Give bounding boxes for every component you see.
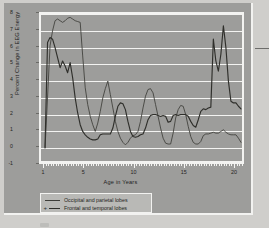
x-tick-minor xyxy=(101,163,102,166)
plot-wrapper xyxy=(39,12,244,168)
y-tick-label: 8 xyxy=(0,9,13,15)
x-tick-minor xyxy=(51,163,52,166)
x-tick-minor xyxy=(58,163,59,166)
x-tick-major xyxy=(134,163,135,168)
x-tick-minor xyxy=(219,163,220,166)
y-tick-mark xyxy=(36,129,39,130)
x-tick-minor xyxy=(239,163,240,166)
x-tick-minor xyxy=(164,163,165,166)
x-tick-minor xyxy=(199,163,200,166)
chart-panel: Percent Change in EEG Energy -1012345678… xyxy=(4,3,253,215)
x-axis-ticks xyxy=(39,163,244,168)
x-tick-minor xyxy=(216,163,217,166)
x-tick-minor xyxy=(166,163,167,166)
x-tick-minor xyxy=(146,163,147,166)
x-tick-label: 20 xyxy=(231,169,237,175)
y-tick-label: 7 xyxy=(0,26,13,32)
x-tick-minor xyxy=(151,163,152,166)
x-tick-minor xyxy=(118,163,119,166)
y-tick-label: 1 xyxy=(0,126,13,132)
x-tick-minor xyxy=(209,163,210,166)
legend-key-plus-line-icon: + xyxy=(44,205,61,212)
x-tick-minor xyxy=(113,163,114,166)
x-tick-minor xyxy=(161,163,162,166)
x-tick-minor xyxy=(68,163,69,166)
x-tick-minor xyxy=(81,163,82,166)
x-tick-minor xyxy=(194,163,195,166)
x-tick-minor xyxy=(191,163,192,166)
x-tick-minor xyxy=(131,163,132,166)
x-tick-minor xyxy=(88,163,89,166)
x-tick-minor xyxy=(108,163,109,166)
x-tick-minor xyxy=(201,163,202,166)
y-tick-mark xyxy=(36,12,39,13)
x-tick-minor xyxy=(179,163,180,166)
x-tick-minor xyxy=(204,163,205,166)
x-tick-minor xyxy=(176,163,177,166)
figure-page: Percent Change in EEG Energy -1012345678… xyxy=(0,0,269,228)
x-tick-minor xyxy=(221,163,222,166)
x-tick-minor xyxy=(159,163,160,166)
x-tick-minor xyxy=(141,163,142,166)
x-tick-label: 15 xyxy=(181,169,187,175)
y-tick-mark xyxy=(36,79,39,80)
x-tick-minor xyxy=(71,163,72,166)
x-tick-minor xyxy=(93,163,94,166)
x-axis-title-text: Age in Years xyxy=(104,179,138,185)
plot-area xyxy=(39,12,244,163)
x-axis-title: Age in Years xyxy=(4,179,251,185)
y-tick-mark xyxy=(36,113,39,114)
y-tick-mark xyxy=(36,29,39,30)
x-tick-minor xyxy=(169,163,170,166)
x-tick-minor xyxy=(242,163,243,166)
x-tick-minor xyxy=(226,163,227,166)
legend-item-occipital: Occipital and parietal lobes xyxy=(44,196,148,204)
x-tick-minor xyxy=(61,163,62,166)
x-tick-minor xyxy=(174,163,175,166)
x-tick-minor xyxy=(78,163,79,166)
x-tick-minor xyxy=(91,163,92,166)
x-tick-minor xyxy=(154,163,155,166)
x-tick-minor xyxy=(48,163,49,166)
y-tick-label: 6 xyxy=(0,43,13,49)
x-tick-minor xyxy=(116,163,117,166)
x-tick-minor xyxy=(139,163,140,166)
legend-label-frontal: Frontal and temporal lobes xyxy=(64,205,127,211)
x-tick-minor xyxy=(56,163,57,166)
x-tick-minor xyxy=(123,163,124,166)
x-tick-minor xyxy=(98,163,99,166)
x-tick-minor xyxy=(206,163,207,166)
x-tick-minor xyxy=(106,163,107,166)
x-tick-minor xyxy=(63,163,64,166)
x-tick-minor xyxy=(181,163,182,166)
x-tick-label: 1 xyxy=(42,169,45,175)
x-tick-minor xyxy=(103,163,104,166)
series-layer xyxy=(41,14,246,165)
margin-rule xyxy=(255,48,269,49)
x-tick-minor xyxy=(229,163,230,166)
series-line xyxy=(45,26,241,148)
x-tick-label: 10 xyxy=(131,169,137,175)
x-tick-minor xyxy=(46,163,47,166)
x-tick-minor xyxy=(121,163,122,166)
x-tick-minor xyxy=(128,163,129,166)
x-tick-major xyxy=(83,163,84,168)
x-tick-minor xyxy=(66,163,67,166)
x-tick-minor xyxy=(186,163,187,166)
y-tick-label: 2 xyxy=(0,110,13,116)
x-tick-minor xyxy=(237,163,238,166)
x-tick-minor xyxy=(171,163,172,166)
y-tick-label: 5 xyxy=(0,59,13,65)
x-tick-minor xyxy=(111,163,112,166)
y-tick-mark xyxy=(36,62,39,63)
x-tick-label: 5 xyxy=(82,169,85,175)
y-tick-label: 4 xyxy=(0,76,13,82)
x-tick-minor xyxy=(144,163,145,166)
legend-label-occipital: Occipital and parietal lobes xyxy=(64,197,128,203)
x-tick-minor xyxy=(53,163,54,166)
y-tick-mark xyxy=(36,96,39,97)
x-tick-minor xyxy=(73,163,74,166)
legend-item-frontal: + Frontal and temporal lobes xyxy=(44,204,148,212)
legend-key-line-icon xyxy=(44,197,61,204)
x-tick-minor xyxy=(224,163,225,166)
